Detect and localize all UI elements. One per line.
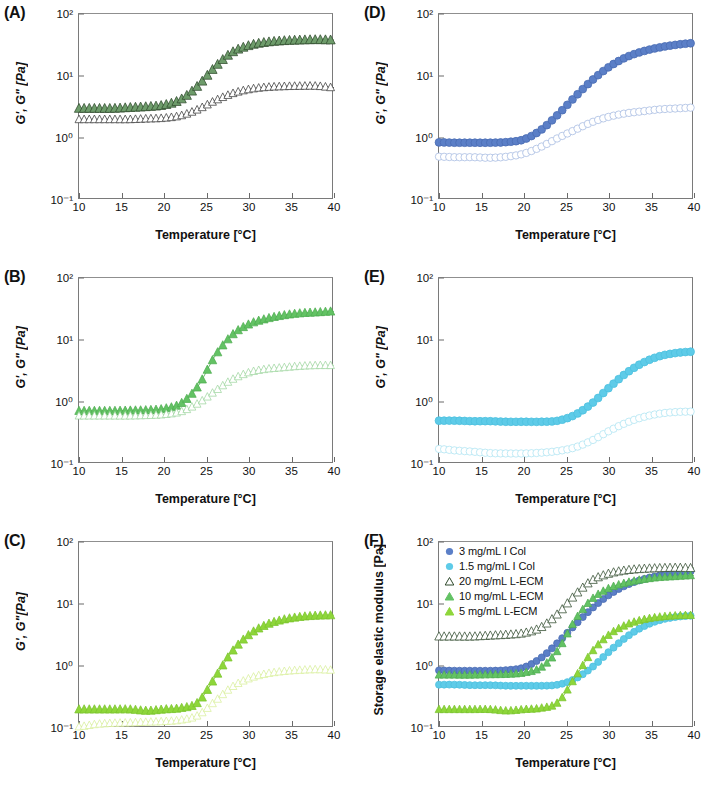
x-tick-label: 20 xyxy=(518,465,531,477)
y-tick-label: 10² xyxy=(416,272,433,284)
y-tick-label: 10² xyxy=(56,272,73,284)
x-tick-label: 20 xyxy=(158,465,171,477)
x-tick-label: 30 xyxy=(603,729,616,741)
y-tick-label: 10⁰ xyxy=(55,131,73,145)
x-tick-label: 15 xyxy=(475,729,488,741)
x-tick-label: 25 xyxy=(560,465,573,477)
x-tick-label: 25 xyxy=(560,201,573,213)
legend-marker-icon xyxy=(444,591,455,602)
x-tick-label: 15 xyxy=(115,465,128,477)
x-tick-label: 35 xyxy=(645,465,658,477)
y-tick-label: 10¹ xyxy=(56,70,73,82)
panel-f-xlabel: Temperature [°C] xyxy=(438,756,693,770)
panel-e: (E) G', G" [Pa] 10²10¹10⁰10⁻¹10152025303… xyxy=(360,264,719,528)
y-tick-label: 10⁻¹ xyxy=(410,721,433,735)
panel-d-plot-area: 10²10¹10⁰10⁻¹10152025303540 xyxy=(438,13,693,199)
panel-f-legend: 3 mg/mL I Col1.5 mg/mL I Col20 mg/mL L-E… xyxy=(444,544,543,619)
legend-item: 3 mg/mL I Col xyxy=(444,544,543,559)
panel-f-ylabel: Storage elastic modulus [Pa] xyxy=(372,544,386,716)
legend-item: 1.5 mg/mL I Col xyxy=(444,559,543,574)
series-f-4 xyxy=(435,611,694,714)
panel-b-xlabel: Temperature [°C] xyxy=(78,492,333,506)
x-tick-mark xyxy=(694,193,695,198)
panel-a: (A) G', G" [Pa] 10²10¹10⁰10⁻¹10152025303… xyxy=(0,0,359,264)
x-tick-label: 30 xyxy=(243,201,256,213)
panel-b-label: (B) xyxy=(4,268,25,286)
x-tick-label: 10 xyxy=(433,465,446,477)
panel-b-plot-area: 10²10¹10⁰10⁻¹10152025303540 xyxy=(78,277,333,463)
y-tick-label: 10⁰ xyxy=(415,659,433,673)
x-tick-mark xyxy=(694,457,695,462)
panel-d-label: (D) xyxy=(364,4,385,22)
x-tick-label: 40 xyxy=(328,729,341,741)
legend-label: 3 mg/mL I Col xyxy=(459,544,526,559)
legend-label: 20 mg/mL L-ECM xyxy=(459,574,543,589)
x-tick-label: 35 xyxy=(285,465,298,477)
y-tick-label: 10⁻¹ xyxy=(50,721,73,735)
x-tick-label: 30 xyxy=(603,465,616,477)
x-tick-label: 20 xyxy=(158,201,171,213)
panel-c-label: (C) xyxy=(4,532,25,550)
panel-c-ylabel: G', G"[Pa] xyxy=(14,592,28,651)
x-tick-label: 30 xyxy=(243,465,256,477)
y-tick-label: 10¹ xyxy=(416,598,433,610)
x-tick-mark xyxy=(334,457,335,462)
x-tick-label: 10 xyxy=(73,465,86,477)
x-tick-label: 20 xyxy=(518,729,531,741)
panel-e-label: (E) xyxy=(364,268,384,286)
y-tick-label: 10¹ xyxy=(416,70,433,82)
series-c-0 xyxy=(75,611,335,715)
legend-marker-icon xyxy=(444,576,455,587)
panel-c-curves xyxy=(79,542,334,728)
x-tick-label: 40 xyxy=(688,465,701,477)
x-tick-mark xyxy=(334,721,335,726)
y-tick-label: 10⁰ xyxy=(415,131,433,145)
series-a-1 xyxy=(75,82,334,123)
legend-label: 5 mg/mL L-ECM xyxy=(459,604,537,619)
x-tick-label: 35 xyxy=(645,729,658,741)
x-tick-label: 25 xyxy=(200,729,213,741)
panel-e-ylabel: G', G" [Pa] xyxy=(374,326,388,388)
x-tick-label: 40 xyxy=(688,201,701,213)
x-tick-label: 10 xyxy=(73,201,86,213)
panel-d-xlabel: Temperature [°C] xyxy=(438,228,693,242)
legend-marker-icon xyxy=(444,606,455,617)
y-tick-label: 10⁻¹ xyxy=(50,457,73,471)
legend-marker-icon xyxy=(444,546,455,557)
x-tick-label: 25 xyxy=(200,201,213,213)
panel-c-xlabel: Temperature [°C] xyxy=(78,756,333,770)
panel-b-ylabel: G', G" [Pa] xyxy=(14,326,28,388)
legend-item: 5 mg/mL L-ECM xyxy=(444,604,543,619)
panel-e-xlabel: Temperature [°C] xyxy=(438,492,693,506)
x-tick-mark xyxy=(334,193,335,198)
x-tick-label: 35 xyxy=(645,201,658,213)
y-tick-label: 10⁻¹ xyxy=(410,193,433,207)
y-tick-label: 10² xyxy=(56,8,73,20)
panel-c-plot-area: 10²10¹10⁰10⁻¹10152025303540 xyxy=(78,541,333,727)
x-tick-label: 25 xyxy=(200,465,213,477)
panel-a-plot-area: 10²10¹10⁰10⁻¹10152025303540 xyxy=(78,13,333,199)
panel-f: (F) Storage elastic modulus [Pa] 10²10¹1… xyxy=(360,528,719,792)
x-tick-label: 15 xyxy=(115,201,128,213)
y-tick-label: 10⁻¹ xyxy=(50,193,73,207)
y-tick-label: 10¹ xyxy=(56,334,73,346)
panel-d-ylabel: G', G" [Pa] xyxy=(374,62,388,124)
x-tick-label: 15 xyxy=(475,201,488,213)
y-tick-label: 10¹ xyxy=(416,334,433,346)
x-tick-mark xyxy=(694,721,695,726)
panel-a-curves xyxy=(79,14,334,200)
x-tick-label: 10 xyxy=(73,729,86,741)
x-tick-label: 10 xyxy=(433,729,446,741)
panel-d-curves xyxy=(439,14,694,200)
x-tick-label: 35 xyxy=(285,729,298,741)
panel-a-xlabel: Temperature [°C] xyxy=(78,228,333,242)
y-tick-label: 10⁰ xyxy=(55,659,73,673)
panel-e-plot-area: 10²10¹10⁰10⁻¹10152025303540 xyxy=(438,277,693,463)
x-tick-label: 20 xyxy=(518,201,531,213)
x-tick-label: 40 xyxy=(328,201,341,213)
series-a-0 xyxy=(74,35,335,113)
legend-label: 1.5 mg/mL I Col xyxy=(459,559,535,574)
panel-b: (B) G', G" [Pa] 10²10¹10⁰10⁻¹10152025303… xyxy=(0,264,359,528)
figure-rheology-panels: (A) G', G" [Pa] 10²10¹10⁰10⁻¹10152025303… xyxy=(0,0,719,792)
y-tick-label: 10² xyxy=(416,8,433,20)
